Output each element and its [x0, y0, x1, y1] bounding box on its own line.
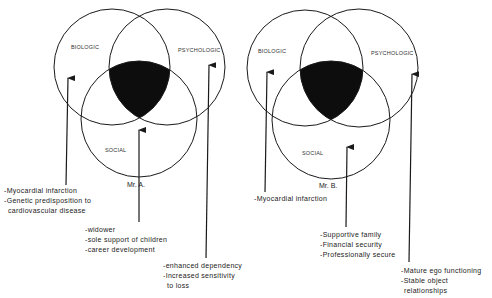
social-factors: -Supportive family -Financial security -… [320, 230, 395, 260]
factor-item: cardiovascular disease [4, 206, 91, 216]
factor-item: to loss [163, 281, 242, 291]
biologic-factors: -Myocardial infarction -Genetic predispo… [4, 186, 91, 216]
factor-item: -Myocardial infarction [4, 186, 91, 196]
factor-item: -Mature ego functioning [401, 266, 481, 276]
factor-item: relationships [401, 286, 481, 296]
social-factors: -widower -sole support of children -care… [85, 225, 167, 255]
factor-item: -Increased sensitivity [163, 271, 242, 281]
label-biologic: BIOLOGIC [71, 44, 99, 50]
arrow-psychologic [206, 65, 209, 258]
factor-item: -Professionally secure [320, 250, 395, 260]
psychologic-factors: -enhanced dependency -Increased sensitiv… [163, 261, 242, 291]
factor-item: -Financial security [320, 240, 395, 250]
factor-item: -Genetic predisposition to [4, 196, 91, 206]
arrow-psychologic [409, 74, 412, 262]
factor-item: -Stable object [401, 276, 481, 286]
factor-item: -widower [85, 225, 167, 235]
label-biologic: BIOLOGIC [258, 48, 286, 54]
arrow-biologic [66, 78, 68, 185]
factor-item: -Supportive family [320, 230, 395, 240]
venn-mr-b [247, 9, 418, 262]
arrow-social [346, 147, 347, 227]
psychologic-factors: -Mature ego functioning -Stable object r… [401, 266, 481, 296]
label-social: SOCIAL [302, 150, 323, 156]
biologic-factors: -Myocardial infarction [254, 194, 327, 204]
patient-name: Mr. A. [127, 181, 145, 188]
arrow-biologic [265, 72, 267, 192]
factor-item: -Myocardial infarction [254, 194, 327, 204]
patient-name: Mr. B. [319, 182, 337, 189]
factor-item: -enhanced dependency [163, 261, 242, 271]
factor-item: -sole support of children [85, 235, 167, 245]
label-psychologic: PSYCHOLOGIC [371, 50, 414, 56]
label-psychologic: PSYCHOLOGIC [178, 47, 221, 53]
factor-item: -career development [85, 245, 167, 255]
label-social: SOCIAL [105, 147, 126, 153]
